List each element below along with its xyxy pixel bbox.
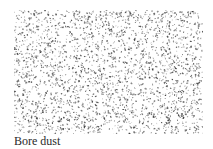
speckle-texture [14, 10, 203, 134]
bore-dust-image [14, 10, 203, 134]
figure-caption: Bore dust [14, 134, 60, 148]
